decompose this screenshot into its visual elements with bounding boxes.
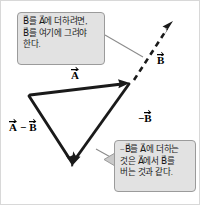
vector-glyph-a: A	[9, 122, 17, 133]
callout-add-vector-b: B⃗를 A⃗에 더하려면, B⃗를 여기에 그려야 한다.	[17, 12, 105, 65]
vector-label-negb-text: B	[144, 112, 151, 124]
callout-subtract-vector-b: −B⃗를 A⃗에 더하는 것은 A⃗에서 B⃗를 버는 것과 같다.	[114, 140, 196, 192]
vector-glyph-a: A	[71, 70, 79, 81]
vector-a-minus-b-arrowhead	[66, 154, 75, 167]
callout-sub-line-1: −B⃗를 A⃗에 더하는	[120, 144, 191, 156]
vector-subtraction-figure: B⃗를 A⃗에 더하려면, B⃗를 여기에 그려야 한다. −B⃗를 A⃗에 더…	[0, 0, 200, 205]
callout-add-line-3: 한다.	[23, 39, 100, 51]
vector-label-a-text: A	[71, 69, 79, 81]
vector-label-negative-b: − B	[138, 113, 152, 124]
vector-label-a-text: A	[9, 121, 17, 133]
vector-label-b-text: B	[157, 54, 164, 66]
vector-a-shaft	[30, 84, 122, 95]
vector-label-a-minus-b: A − B	[9, 122, 37, 133]
callout-add-pointer-line	[105, 35, 143, 57]
callout-sub-line-3: 버는 것과 같다.	[120, 167, 191, 179]
vector-glyph-b: B	[144, 113, 151, 124]
callout-add-line-1: B⃗를 A⃗에 더하려면,	[23, 16, 100, 28]
vector-label-b: B	[157, 55, 164, 66]
vector-label-b-text: B	[29, 121, 36, 133]
vector-glyph-b: B	[29, 122, 36, 133]
callout-add-line-2: B⃗를 여기에 그려야	[23, 28, 100, 40]
callout-sub-line-2: 것은 A⃗에서 B⃗를	[120, 156, 191, 168]
vector-label-a: A	[71, 70, 79, 81]
minus-operator: −	[17, 121, 29, 133]
vector-glyph-b: B	[157, 55, 164, 66]
vector-b-arrowhead	[163, 21, 174, 34]
